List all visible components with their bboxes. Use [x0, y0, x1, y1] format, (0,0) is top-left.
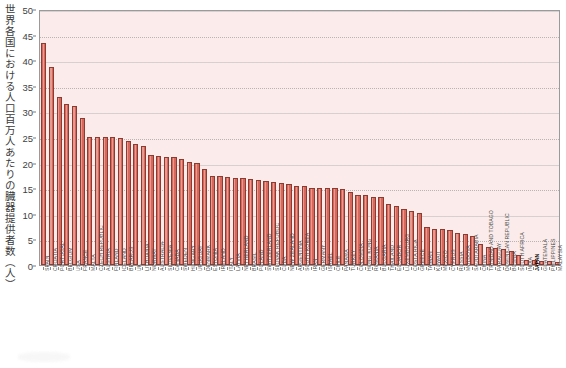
bar-highlight [311, 189, 312, 264]
y-tick-label: 50 [22, 5, 33, 16]
x-tick-label: SWITZERLAND [267, 233, 272, 271]
bar [49, 67, 54, 265]
x-tick-label: MALAYSIA [558, 245, 563, 271]
bar-highlight [334, 189, 335, 264]
y-tick-label: 25 [22, 133, 33, 144]
y-tick-mark [33, 240, 36, 241]
bar-series [40, 11, 559, 265]
bar [87, 137, 92, 266]
y-tick-mark [33, 35, 36, 36]
y-tick-mark [33, 163, 36, 164]
bar-highlight [66, 105, 67, 264]
bar-highlight [112, 138, 113, 264]
y-axis-tick-labels: 05101520253035404550 [16, 8, 36, 268]
bar-highlight [135, 145, 136, 264]
y-tick-mark [33, 86, 36, 87]
bar [72, 106, 77, 265]
x-tick-label: SOUTH AFRICA [520, 232, 525, 271]
plot-area [39, 10, 560, 266]
y-tick-label: 40 [22, 56, 33, 67]
bar [57, 97, 62, 265]
chart-figure: 世界各国における人口百万人あたりの臓器提供者数（人） 0510152025303… [0, 0, 566, 368]
y-tick-mark [33, 61, 36, 62]
y-tick-mark [33, 214, 36, 215]
bar-highlight [73, 107, 74, 264]
x-axis-tick-labels: SPAINCROATIAPORTUGALBELGIUMUSAFRANCEMALT… [39, 267, 560, 365]
bar-highlight [43, 44, 44, 264]
x-tick-label: SLOVAK REPUBLIC [275, 223, 280, 271]
bar-highlight [89, 138, 90, 265]
y-tick-label: 10 [22, 209, 33, 220]
bar-highlight [280, 184, 281, 264]
bar-highlight [50, 68, 51, 264]
x-tick-label: DOMINICAN REPUBLIC [505, 213, 510, 271]
x-tick-label: SOUTH KOREA [305, 233, 310, 271]
bar [80, 118, 85, 265]
y-axis-title: 世界各国における人口百万人あたりの臓器提供者数（人） [1, 8, 17, 286]
y-tick-label: 45 [22, 30, 33, 41]
page-artifact [18, 352, 70, 362]
bar [41, 43, 46, 265]
bar [233, 178, 238, 265]
bar-highlight [227, 178, 228, 264]
x-tick-label: CZECH REPUBLIC [99, 225, 104, 271]
y-tick-mark [33, 266, 36, 267]
y-tick-label: 35 [22, 81, 33, 92]
x-tick-label: NEW ZEALAND [290, 233, 295, 271]
bar [64, 104, 69, 265]
y-tick-mark [33, 112, 36, 113]
y-tick-mark [33, 138, 36, 139]
y-tick-mark [33, 189, 36, 190]
x-tick-label: LUXEMBOURG [405, 234, 410, 271]
y-tick-label: 20 [22, 158, 33, 169]
bar [110, 137, 115, 265]
bar-highlight [119, 139, 120, 264]
bar-highlight [58, 98, 59, 264]
x-tick-label: NETHERLAND [244, 235, 249, 271]
y-tick-label: 30 [22, 107, 33, 118]
bar [118, 138, 123, 265]
bar-highlight [234, 179, 235, 264]
y-tick-label: 15 [22, 184, 33, 195]
y-tick-mark [33, 10, 36, 11]
x-tick-label: SAUDI ARABIA [474, 234, 479, 271]
x-tick-label: TRINIDAD AND TOBAGO [489, 210, 494, 271]
bar-highlight [81, 119, 82, 264]
bar-highlight [127, 142, 128, 264]
